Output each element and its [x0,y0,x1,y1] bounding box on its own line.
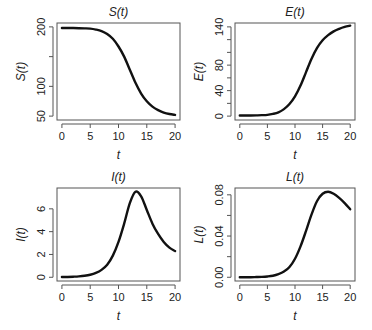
x-axis-label: t [293,148,297,162]
y-tick-label: 6 [35,206,47,212]
y-axis-label: E(t) [192,62,206,81]
y-axis: 50100200 [35,18,53,123]
series-line-l [240,192,350,278]
panel-l: L(t)05101520t0.000.040.08L(t) [192,170,356,323]
series-line-e [240,26,350,116]
x-tick-label: 5 [264,291,270,303]
panel-e: E(t)05101520t04080140E(t) [192,5,356,162]
panel-s: S(t)05101520t50100200S(t) [14,5,181,162]
x-tick-label: 15 [141,291,153,303]
series-line-s [62,28,175,115]
y-tick-label: 0 [35,274,47,280]
x-tick-label: 20 [169,130,181,142]
y-tick-label: 0.00 [213,267,225,288]
y-axis: 0.000.040.08 [213,184,231,288]
x-tick-label: 15 [316,130,328,142]
x-tick-label: 0 [59,291,65,303]
x-axis-label: t [117,309,121,323]
x-axis: 05101520 [237,124,357,142]
x-tick-label: 10 [289,291,301,303]
y-tick-label: 200 [35,18,47,36]
series-line-i [62,191,175,277]
x-tick-label: 0 [237,130,243,142]
y-tick-label: 100 [35,77,47,95]
y-tick-label: 80 [213,59,225,71]
figure: S(t)05101520t50100200S(t)E(t)05101520t04… [0,0,372,330]
chart-title: I(t) [111,170,126,184]
y-tick-label: 0.04 [213,225,225,246]
y-tick-label: 40 [213,84,225,96]
x-axis-label: t [293,309,297,323]
x-tick-label: 20 [344,130,356,142]
y-tick-label: 4 [35,229,47,235]
chart-title: S(t) [109,5,128,19]
y-axis-label: S(t) [14,62,28,81]
panel-i: I(t)05101520t0246I(t) [14,170,181,323]
x-tick-label: 20 [169,291,181,303]
plot-frame [57,23,180,120]
x-tick-label: 15 [316,291,328,303]
x-tick-label: 5 [264,130,270,142]
y-axis: 04080140 [213,18,231,119]
x-axis: 05101520 [237,285,357,303]
x-tick-label: 20 [344,291,356,303]
y-tick-label: 2 [35,251,47,257]
x-tick-label: 10 [112,130,124,142]
y-axis-label: I(t) [14,227,28,242]
y-axis: 0246 [35,206,53,281]
x-axis: 05101520 [59,285,181,303]
x-axis-label: t [117,148,121,162]
x-tick-label: 5 [87,130,93,142]
plot-frame [235,188,355,281]
chart-title: E(t) [285,5,304,19]
x-axis: 05101520 [59,124,181,142]
chart-title: L(t) [286,170,304,184]
x-tick-label: 0 [59,130,65,142]
y-tick-label: 50 [35,110,47,122]
y-tick-label: 0.08 [213,184,225,205]
x-tick-label: 10 [289,130,301,142]
plot-frame [57,188,180,281]
plot-frame [235,23,355,120]
y-axis-label: L(t) [192,225,206,243]
y-tick-label: 140 [213,18,225,36]
x-tick-label: 0 [237,291,243,303]
x-tick-label: 15 [141,130,153,142]
x-tick-label: 5 [87,291,93,303]
x-tick-label: 10 [112,291,124,303]
y-tick-label: 0 [213,113,225,119]
